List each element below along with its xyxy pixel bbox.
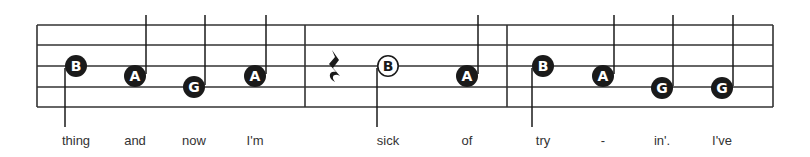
- note-b: B: [532, 55, 554, 127]
- lyric-syllable: and: [124, 133, 146, 149]
- note-letter: A: [130, 68, 141, 84]
- lyric-syllable: -: [601, 133, 605, 149]
- note-letter: G: [188, 79, 200, 95]
- note-letter: B: [383, 58, 394, 74]
- note-letter: B: [538, 58, 549, 74]
- note-g: G: [711, 15, 733, 99]
- note-a: A: [456, 15, 478, 87]
- note-b: B: [65, 55, 87, 127]
- note-letter: A: [598, 68, 609, 84]
- note-g: G: [183, 15, 205, 98]
- lyric-syllable: in'.: [654, 133, 670, 149]
- note-g: G: [651, 15, 673, 99]
- lyric-syllable: sick: [377, 133, 399, 149]
- lyric-syllable: thing: [62, 133, 90, 149]
- note-letter: B: [71, 58, 82, 74]
- lyric-syllable: of: [462, 133, 473, 149]
- lyric-syllable: now: [182, 133, 206, 149]
- lyric-syllable: I've: [712, 133, 732, 149]
- note-a: A: [244, 15, 266, 87]
- lyric-syllable: I'm: [247, 133, 264, 149]
- note-a: A: [124, 15, 146, 87]
- note-letter: G: [716, 80, 728, 96]
- lyric-syllable: try: [536, 133, 550, 149]
- note-letter: A: [250, 68, 261, 84]
- note-letter: G: [656, 80, 668, 96]
- note-a: A: [592, 15, 614, 87]
- note-letter: A: [462, 68, 473, 84]
- notes: BAGABABAGG: [65, 15, 733, 127]
- note-b: B: [377, 56, 398, 127]
- music-staff: BAGABABAGG: [0, 0, 810, 157]
